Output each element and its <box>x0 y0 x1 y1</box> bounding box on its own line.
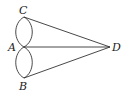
label-a: A <box>7 41 16 54</box>
label-b: B <box>18 80 27 93</box>
segment-cd <box>24 17 110 47</box>
label-c: C <box>19 4 28 17</box>
upper-lens-left-arc <box>16 17 24 47</box>
segment-bd <box>24 47 110 78</box>
upper-lens-right-arc <box>24 17 32 47</box>
lower-lens-left-arc <box>16 47 24 78</box>
lower-lens-right-arc <box>24 47 32 78</box>
geometry-diagram: C A B D <box>0 0 129 101</box>
label-d: D <box>111 41 121 54</box>
